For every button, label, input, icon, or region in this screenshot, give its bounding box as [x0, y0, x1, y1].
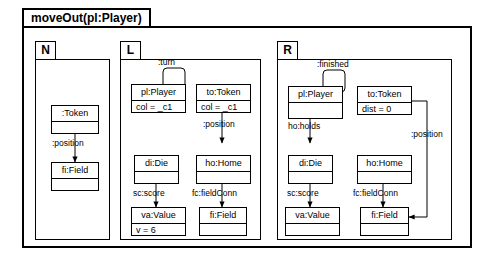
node-attr	[52, 122, 98, 135]
node-attr	[200, 224, 246, 237]
node-attr	[135, 172, 178, 185]
node-header: di:Die	[289, 156, 332, 172]
node-header: fi:Field	[200, 208, 246, 224]
node-r-home[interactable]: ho:Home	[357, 155, 412, 184]
node-header: ho:Home	[358, 156, 411, 172]
edge-label-l-fieldconn: fc:fieldConn	[192, 189, 237, 198]
node-header: va:Value	[286, 208, 339, 224]
node-l-token[interactable]: to:Token col = _c1	[196, 84, 251, 113]
node-attr: col = _c1	[132, 101, 185, 114]
edge-label-n-position: :position	[52, 139, 84, 148]
edge-label-r-score: sc:score	[287, 189, 319, 198]
panel-n	[35, 59, 110, 240]
node-l-die[interactable]: di:Die	[134, 155, 179, 184]
node-attr: col = _c1	[197, 101, 250, 114]
node-header: ho:Home	[197, 156, 250, 172]
node-attr	[197, 172, 250, 185]
panel-tab-n[interactable]: N	[35, 41, 56, 60]
panel-tab-r[interactable]: R	[277, 41, 298, 60]
node-l-value[interactable]: va:Value v = 6	[131, 207, 186, 236]
node-r-player[interactable]: pl:Player	[288, 86, 343, 119]
edge-label-r-holds: ho:holds	[288, 122, 320, 131]
node-header: :Token	[52, 106, 98, 122]
node-l-field[interactable]: fi:Field	[199, 207, 247, 236]
node-attr	[361, 224, 408, 237]
node-r-token[interactable]: to:Token dist = 0	[357, 86, 412, 115]
node-r-die[interactable]: di:Die	[288, 155, 333, 184]
node-header: va:Value	[132, 208, 185, 224]
node-r-value[interactable]: va:Value	[285, 207, 340, 236]
node-attr	[289, 172, 332, 185]
edge-label-l-score: sc:score	[133, 189, 165, 198]
rule-title: moveOut(pl:Player)	[22, 8, 151, 28]
node-attr: v = 6	[132, 224, 185, 237]
edge-label-r-position: :position	[411, 130, 443, 139]
node-n-token[interactable]: :Token	[51, 105, 99, 134]
node-attr: dist = 0	[358, 103, 411, 116]
edge-label-r-finished: :finished	[317, 60, 349, 69]
node-r-field[interactable]: fi:Field	[360, 207, 409, 236]
node-header: fi:Field	[52, 163, 98, 179]
edge-label-l-turn: :turn	[158, 58, 175, 67]
node-header: di:Die	[135, 156, 178, 172]
diagram-canvas: moveOut(pl:Player)	[0, 0, 495, 269]
node-header: pl:Player	[289, 87, 342, 103]
node-header: pl:Player	[132, 85, 185, 101]
edge-label-r-fieldconn: fc:fieldConn	[353, 189, 398, 198]
node-attr	[286, 224, 339, 237]
edge-label-l-position: :position	[203, 120, 235, 129]
node-header: to:Token	[197, 85, 250, 101]
node-attr	[358, 172, 411, 185]
node-attr	[289, 103, 342, 116]
panel-tab-l[interactable]: L	[120, 41, 141, 60]
node-n-field[interactable]: fi:Field	[51, 162, 99, 191]
node-l-player[interactable]: pl:Player col = _c1	[131, 84, 186, 113]
node-header: fi:Field	[361, 208, 408, 224]
node-header: to:Token	[358, 87, 411, 103]
node-l-home[interactable]: ho:Home	[196, 155, 251, 184]
node-attr	[52, 179, 98, 192]
